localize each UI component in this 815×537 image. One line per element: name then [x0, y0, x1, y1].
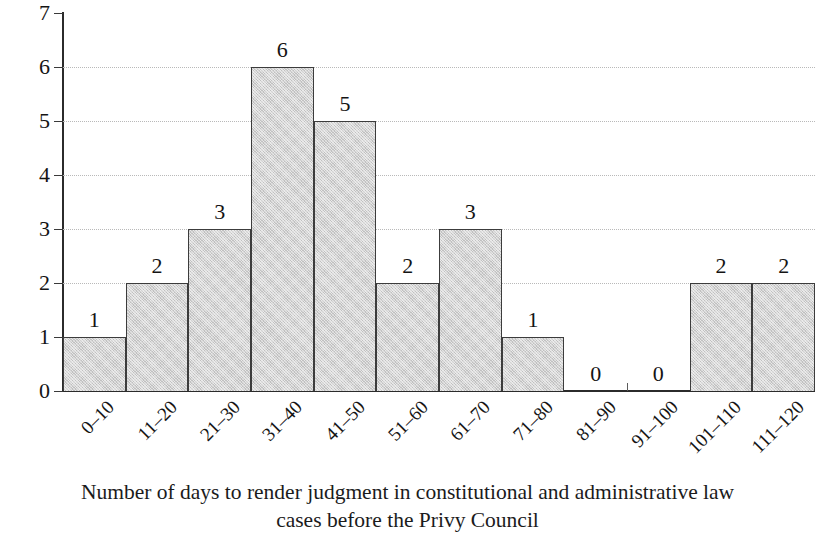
y-tick-label: 4 [39, 164, 50, 186]
bar-value-label: 2 [716, 255, 727, 277]
y-tick-label: 6 [39, 56, 50, 78]
caption-line-1: Number of days to render judgment in con… [40, 478, 775, 506]
y-tick-mark [54, 13, 63, 14]
y-axis-title: Number of cases [0, 0, 30, 43]
bar-value-label: 2 [402, 255, 413, 277]
bar-value-label: 3 [465, 201, 476, 223]
y-tick-label: 3 [39, 218, 50, 240]
x-tick-label: 81–90 [572, 397, 619, 444]
x-tick-label: 71–80 [509, 397, 556, 444]
y-tick-label: 5 [39, 110, 50, 132]
bar[interactable] [376, 283, 439, 391]
bar-value-label: 3 [214, 201, 225, 223]
bar[interactable] [690, 283, 753, 391]
bar-value-label: 1 [528, 309, 539, 331]
x-tick-label: 61–70 [447, 397, 494, 444]
x-tick-label: 0–10 [77, 397, 117, 437]
x-tick-label: 111–120 [748, 397, 807, 456]
x-tick-label: 31–40 [259, 397, 306, 444]
figure-caption: Number of days to render judgment in con… [40, 478, 775, 534]
y-tick-mark [54, 229, 63, 230]
x-tick-label: 51–60 [384, 397, 431, 444]
bar[interactable] [251, 67, 314, 391]
y-tick-label: 1 [39, 326, 50, 348]
x-tick-label: 101–110 [684, 397, 744, 457]
bar-value-label: 5 [340, 93, 351, 115]
x-tick-label: 11–20 [134, 397, 181, 444]
y-tick-label: 2 [39, 272, 50, 294]
histogram-figure: Number of cases 01234567 123652310022 0–… [0, 0, 815, 537]
bar[interactable] [502, 337, 565, 391]
y-tick-mark [54, 175, 63, 176]
caption-line-2: cases before the Privy Council [40, 506, 775, 534]
bar-value-label: 1 [89, 309, 100, 331]
bar[interactable] [63, 337, 126, 391]
x-tick-label: 91–100 [628, 397, 682, 451]
y-tick-mark [54, 337, 63, 338]
bar-value-label: 0 [590, 363, 601, 385]
gridline [63, 67, 815, 69]
x-tick-label: 21–30 [196, 397, 243, 444]
bar-value-label: 0 [653, 363, 664, 385]
bin-boundary-tick [627, 383, 628, 391]
bar[interactable] [314, 121, 377, 391]
y-tick-mark [54, 67, 63, 68]
bar[interactable] [126, 283, 189, 391]
bar[interactable] [752, 283, 815, 391]
x-tick-label: 41–50 [321, 397, 368, 444]
plot-area: 01234567 123652310022 [63, 13, 815, 391]
y-tick-mark [54, 121, 63, 122]
bar-value-label: 2 [152, 255, 163, 277]
y-tick-label: 7 [39, 2, 50, 24]
y-tick-mark [54, 391, 63, 392]
bar[interactable] [439, 229, 502, 391]
bar[interactable] [188, 229, 251, 391]
gridline [63, 175, 815, 177]
y-tick-mark [54, 283, 63, 284]
gridline [63, 121, 815, 123]
bar-value-label: 2 [778, 255, 789, 277]
bar-value-label: 6 [277, 39, 288, 61]
y-tick-label: 0 [39, 380, 50, 402]
